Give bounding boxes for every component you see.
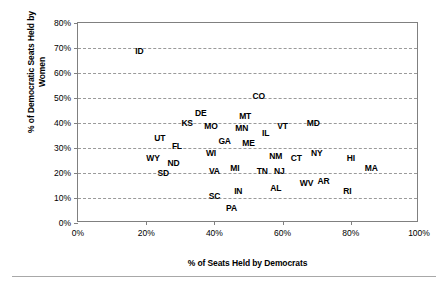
x-axis-title: % of Seats Held by Democrats — [77, 258, 418, 268]
x-tick-mark — [283, 221, 284, 225]
data-point-label: IN — [234, 186, 242, 196]
data-point-label: MA — [365, 163, 378, 173]
data-point-label: CT — [291, 153, 302, 163]
y-tick-label: 0% — [59, 218, 71, 228]
x-tick-mark — [214, 221, 215, 225]
data-point-label: NM — [269, 151, 282, 161]
data-point-label: MO — [204, 121, 217, 131]
data-point-label: MN — [235, 123, 248, 133]
y-tick-mark — [74, 148, 78, 149]
y-tick-mark — [74, 198, 78, 199]
y-tick-label: 70% — [54, 43, 71, 53]
y-tick-mark — [74, 173, 78, 174]
plot-area: 0%10%20%30%40%50%60%70%80%0%20%40%60%80%… — [77, 22, 418, 222]
scatter-chart-figure: % of Democratic Seats Held by Women 0%10… — [0, 0, 446, 286]
data-point-label: AL — [270, 183, 281, 193]
x-tick-mark — [146, 221, 147, 225]
data-point-label: NY — [311, 148, 322, 158]
data-point-label: NJ — [274, 166, 284, 176]
data-point-label: SD — [158, 168, 169, 178]
data-point-label: WV — [300, 178, 313, 188]
x-tick-mark — [351, 221, 352, 225]
data-point-label: WY — [146, 153, 159, 163]
y-tick-mark — [74, 73, 78, 74]
gridline-horizontal — [78, 173, 417, 174]
data-point-label: AR — [318, 176, 330, 186]
y-tick-label: 20% — [54, 168, 71, 178]
data-point-label: KS — [181, 118, 192, 128]
data-point-label: CO — [253, 91, 265, 101]
data-point-label: ID — [135, 46, 143, 56]
data-point-label: VT — [277, 121, 287, 131]
x-tick-label: 40% — [206, 228, 223, 238]
data-point-label: UT — [154, 133, 165, 143]
gridline-horizontal — [78, 198, 417, 199]
data-point-label: HI — [347, 153, 355, 163]
y-tick-mark — [74, 48, 78, 49]
y-tick-label: 30% — [54, 143, 71, 153]
data-point-label: FL — [172, 141, 182, 151]
y-tick-label: 40% — [54, 118, 71, 128]
data-point-label: MT — [239, 111, 251, 121]
y-tick-mark — [74, 23, 78, 24]
data-point-label: MD — [307, 118, 320, 128]
y-tick-label: 60% — [54, 68, 71, 78]
data-point-label: IL — [262, 128, 269, 138]
data-point-label: GA — [218, 136, 230, 146]
data-point-label: PA — [226, 203, 237, 213]
y-tick-label: 10% — [54, 193, 71, 203]
gridline-horizontal — [78, 148, 417, 149]
y-tick-label: 80% — [54, 18, 71, 28]
y-tick-mark — [74, 123, 78, 124]
data-point-label: ND — [168, 158, 180, 168]
x-tick-label: 100% — [408, 228, 430, 238]
x-tick-label: 80% — [342, 228, 359, 238]
y-tick-mark — [74, 223, 78, 224]
gridline-horizontal — [78, 73, 417, 74]
data-point-label: RI — [343, 186, 351, 196]
data-point-label: VA — [209, 166, 220, 176]
data-point-label: WI — [206, 148, 216, 158]
y-tick-mark — [74, 98, 78, 99]
y-axis-title-line-1: % of Democratic Seats Held by — [26, 11, 37, 133]
data-point-label: SC — [209, 191, 220, 201]
data-point-label: MI — [230, 163, 239, 173]
y-axis-title: % of Democratic Seats Held by Women — [19, 0, 55, 172]
x-tick-label: 60% — [274, 228, 291, 238]
gridline-horizontal — [78, 98, 417, 99]
y-tick-label: 50% — [54, 93, 71, 103]
data-point-label: DE — [195, 108, 206, 118]
x-tick-label: 0% — [72, 228, 84, 238]
data-point-label: ME — [242, 138, 254, 148]
gridline-horizontal — [78, 48, 417, 49]
x-tick-label: 20% — [138, 228, 155, 238]
y-axis-title-line-2: Women — [37, 57, 48, 87]
footer-divider — [12, 276, 436, 277]
data-point-label: TN — [257, 166, 268, 176]
